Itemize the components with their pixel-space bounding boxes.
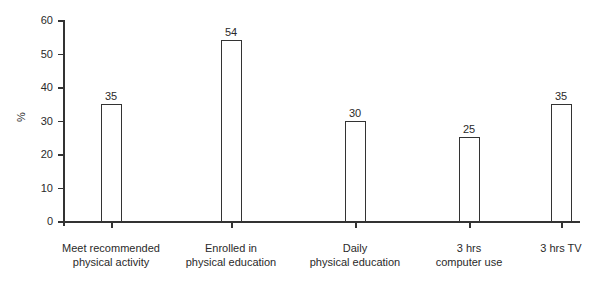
bar [221, 40, 242, 221]
y-tick [58, 87, 64, 89]
bar [551, 104, 572, 221]
bar-value-label: 35 [91, 90, 131, 102]
x-tick [111, 222, 113, 228]
y-tick-label: 0 [31, 215, 53, 227]
y-axis-label: % [15, 112, 27, 122]
bar [345, 121, 366, 222]
y-tick-label: 40 [31, 81, 53, 93]
bar-value-label: 35 [541, 90, 581, 102]
y-tick-label: 60 [31, 14, 53, 26]
bar [101, 104, 122, 221]
y-tick [58, 188, 64, 190]
y-tick [58, 154, 64, 156]
bar-chart: % 0102030405060 3554302535 Meet recommen… [0, 0, 598, 281]
x-axis [58, 221, 580, 223]
bar-value-label: 30 [335, 107, 375, 119]
y-tick-label: 30 [31, 115, 53, 127]
x-tick [469, 222, 471, 228]
category-label: Meet recommendedphysical activity [41, 241, 181, 269]
x-tick [561, 222, 563, 228]
y-axis [63, 20, 65, 226]
bar-value-label: 25 [449, 123, 489, 135]
y-tick [58, 20, 64, 22]
y-tick [58, 121, 64, 123]
bar-value-label: 54 [211, 26, 251, 38]
y-tick [58, 54, 64, 56]
y-tick [58, 221, 64, 223]
y-tick-label: 20 [31, 148, 53, 160]
category-label: 3 hrs TV [491, 241, 598, 255]
bar [459, 137, 480, 221]
category-label: Enrolled inphysical education [161, 241, 301, 269]
x-tick [231, 222, 233, 228]
y-tick-label: 50 [31, 48, 53, 60]
y-tick-label: 10 [31, 182, 53, 194]
x-tick [355, 222, 357, 228]
